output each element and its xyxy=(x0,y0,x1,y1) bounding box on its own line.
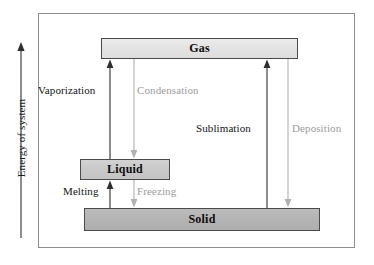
transition-label-condensation: Condensation xyxy=(137,84,199,96)
phase-label-gas: Gas xyxy=(189,41,210,56)
phase-box-liquid[interactable]: Liquid xyxy=(80,159,170,180)
transition-label-freezing: Freezing xyxy=(137,185,176,197)
energy-axis: Energy of system xyxy=(6,40,36,240)
phase-box-solid[interactable]: Solid xyxy=(84,208,320,231)
phase-label-solid: Solid xyxy=(188,212,215,227)
transition-label-vaporization: Vaporization xyxy=(38,84,95,96)
phase-label-liquid: Liquid xyxy=(107,162,143,177)
energy-axis-label: Energy of system xyxy=(15,68,27,208)
transition-label-deposition: Deposition xyxy=(292,122,341,134)
phase-box-gas[interactable]: Gas xyxy=(101,38,298,59)
transition-label-sublimation: Sublimation xyxy=(196,122,251,134)
phase-change-diagram: Energy of system xyxy=(0,0,374,265)
transition-label-melting: Melting xyxy=(63,185,99,197)
